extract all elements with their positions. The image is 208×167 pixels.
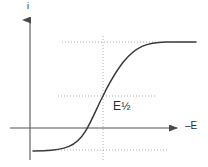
polarographic-wave-figure: i –E E½: [0, 0, 208, 167]
y-axis-label: i: [27, 2, 29, 11]
voltammetric-wave-curve: [33, 42, 196, 151]
half-wave-fraction: ½: [121, 100, 130, 112]
x-axis-label: –E: [185, 121, 197, 131]
gridlines-group: [46, 36, 196, 160]
half-wave-potential-label: E½: [113, 100, 131, 112]
axes-group: [10, 20, 177, 160]
plot-canvas: [0, 0, 208, 167]
